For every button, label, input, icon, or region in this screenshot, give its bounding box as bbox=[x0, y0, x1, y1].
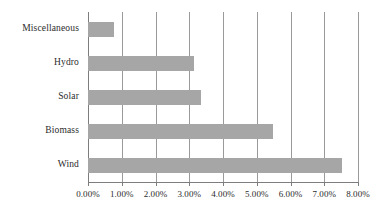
x-axis-tick-label-0: 0.00% bbox=[76, 189, 100, 199]
tick-5 bbox=[257, 182, 258, 186]
tick-3 bbox=[189, 182, 190, 186]
bar-miscellaneous[interactable] bbox=[88, 22, 114, 37]
y-axis-label-biomass: Biomass bbox=[45, 126, 84, 136]
y-axis-label-wind: Wind bbox=[58, 160, 84, 170]
tick-4 bbox=[223, 182, 224, 186]
bar-row bbox=[88, 12, 358, 46]
x-axis-tick-label-5: 5.00% bbox=[245, 189, 269, 199]
bar-hydro[interactable] bbox=[88, 56, 194, 71]
x-axis-tick-label-2: 2.00% bbox=[144, 189, 168, 199]
y-axis-category-labels: MiscellaneousHydroSolarBiomassWind bbox=[0, 12, 84, 182]
bar-biomass[interactable] bbox=[88, 124, 273, 139]
plot-area bbox=[88, 12, 358, 182]
bar-row bbox=[88, 114, 358, 148]
bar-chart: MiscellaneousHydroSolarBiomassWind 0.00%… bbox=[0, 0, 389, 216]
x-axis-tick-label-7: 7.00% bbox=[312, 189, 336, 199]
tick-8 bbox=[358, 182, 359, 186]
x-axis-tick-label-6: 6.00% bbox=[279, 189, 303, 199]
bar-solar[interactable] bbox=[88, 90, 201, 105]
tick-0 bbox=[88, 182, 89, 186]
bar-row bbox=[88, 80, 358, 114]
gridline-8 bbox=[358, 12, 359, 182]
x-axis-ticks bbox=[88, 182, 358, 187]
tick-7 bbox=[324, 182, 325, 186]
bar-wind[interactable] bbox=[88, 158, 342, 173]
x-axis-tick-label-4: 4.00% bbox=[211, 189, 235, 199]
x-axis-tick-label-3: 3.00% bbox=[177, 189, 201, 199]
bar-row bbox=[88, 148, 358, 182]
y-axis-label-miscellaneous: Miscellaneous bbox=[22, 24, 84, 34]
x-axis-tick-label-1: 1.00% bbox=[110, 189, 134, 199]
tick-1 bbox=[122, 182, 123, 186]
tick-2 bbox=[156, 182, 157, 186]
x-axis-tick-label-8: 8.00% bbox=[346, 189, 370, 199]
tick-6 bbox=[291, 182, 292, 186]
bar-series bbox=[88, 12, 358, 182]
y-axis-label-solar: Solar bbox=[58, 92, 84, 102]
y-axis-label-hydro: Hydro bbox=[54, 58, 84, 68]
bar-row bbox=[88, 46, 358, 80]
x-axis-tick-labels: 0.00%1.00%2.00%3.00%4.00%5.00%6.00%7.00%… bbox=[88, 189, 358, 205]
